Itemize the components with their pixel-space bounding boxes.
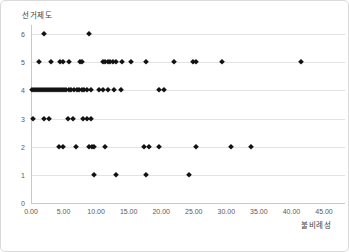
scatter-chart: 선거제도 불비례성 01234560.005.0010.0015.0020.00…	[0, 0, 349, 252]
data-point	[88, 87, 94, 93]
y-axis-title: 선거제도	[22, 9, 52, 20]
y-tick-label: 0	[7, 200, 25, 207]
data-point	[60, 144, 66, 150]
data-point	[86, 31, 92, 37]
data-point	[111, 87, 117, 93]
data-point	[119, 59, 125, 65]
x-tick-label: 25.00	[179, 208, 209, 215]
data-point	[73, 144, 79, 150]
data-point	[146, 144, 152, 150]
data-point	[113, 172, 119, 178]
data-point	[143, 59, 149, 65]
y-tick-label: 3	[7, 115, 25, 122]
data-point	[193, 59, 199, 65]
data-point	[228, 144, 234, 150]
y-tick-label: 4	[7, 87, 25, 94]
x-tick-label: 0.00	[16, 208, 46, 215]
data-point	[156, 144, 162, 150]
data-point	[186, 172, 192, 178]
data-point	[66, 59, 72, 65]
data-point	[46, 115, 52, 121]
y-tick-label: 6	[7, 31, 25, 38]
gridline-y-0	[31, 203, 345, 204]
y-tick-label: 2	[7, 143, 25, 150]
x-tick-label: 5.00	[49, 208, 79, 215]
data-point	[118, 87, 124, 93]
x-tick-label: 45.00	[309, 208, 339, 215]
data-point	[128, 59, 134, 65]
y-tick-label: 1	[7, 171, 25, 178]
data-point	[143, 172, 149, 178]
data-point	[171, 59, 177, 65]
data-point	[91, 144, 97, 150]
gridline-y-3	[31, 119, 345, 120]
y-tick-label: 5	[7, 59, 25, 66]
x-tick-label: 15.00	[114, 208, 144, 215]
data-point	[298, 59, 304, 65]
data-point	[193, 144, 199, 150]
data-point	[248, 144, 254, 150]
x-tick-label: 40.00	[276, 208, 306, 215]
data-point	[219, 59, 225, 65]
x-tick-label: 20.00	[146, 208, 176, 215]
x-axis-title: 불비례성	[301, 219, 331, 230]
y-axis-line	[31, 25, 32, 203]
x-tick-label: 30.00	[211, 208, 241, 215]
data-point	[70, 115, 76, 121]
x-tick-label: 35.00	[244, 208, 274, 215]
data-point	[30, 115, 36, 121]
data-point	[48, 59, 54, 65]
data-point	[161, 87, 167, 93]
data-point	[88, 115, 94, 121]
data-point	[36, 59, 42, 65]
data-point	[91, 172, 97, 178]
data-point	[41, 31, 47, 37]
data-point	[101, 144, 107, 150]
gridline-y-6	[31, 34, 345, 35]
x-tick-label: 10.00	[81, 208, 111, 215]
data-point	[79, 59, 85, 65]
data-point	[105, 87, 111, 93]
